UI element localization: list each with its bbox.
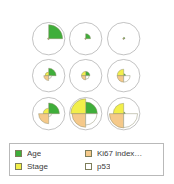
legend-swatch-ki67-icon bbox=[85, 150, 92, 157]
legend-item-stage[interactable]: Stage bbox=[15, 160, 85, 173]
legend-swatch-p53-icon bbox=[85, 163, 92, 170]
legend-label: p53 bbox=[97, 162, 110, 171]
pie-glyph-row bbox=[30, 95, 142, 132]
wedge-ki67-index bbox=[109, 113, 123, 127]
pie-glyph[interactable] bbox=[67, 57, 104, 94]
pie-glyph[interactable] bbox=[30, 95, 67, 132]
legend-swatch-age-icon bbox=[15, 150, 22, 157]
legend-box: AgeKi67 index…Stagep53 bbox=[9, 143, 164, 176]
pie-glyph[interactable] bbox=[105, 20, 142, 57]
pie-glyph-row bbox=[30, 57, 142, 94]
wedge-p53 bbox=[123, 113, 137, 127]
pie-glyph-row bbox=[30, 20, 142, 57]
pie-glyph[interactable] bbox=[67, 95, 104, 132]
legend-item-ki67[interactable]: Ki67 index… bbox=[85, 147, 155, 160]
wedge-age bbox=[49, 25, 63, 39]
legend-item-p53[interactable]: p53 bbox=[85, 160, 155, 173]
legend-label: Age bbox=[27, 149, 41, 158]
pie-glyph[interactable] bbox=[30, 57, 67, 94]
wedge-p53 bbox=[49, 39, 50, 40]
pie-glyph[interactable] bbox=[105, 95, 142, 132]
pie-glyph-grid bbox=[30, 20, 142, 132]
wedge-stage bbox=[71, 98, 86, 113]
legend-label: Stage bbox=[27, 162, 48, 171]
legend-items: AgeKi67 index…Stagep53 bbox=[15, 147, 163, 173]
pie-glyph[interactable] bbox=[30, 20, 67, 57]
pie-glyph[interactable] bbox=[67, 20, 104, 57]
legend-label: Ki67 index… bbox=[97, 149, 142, 158]
component-plane-figure: AgeKi67 index…Stagep53 bbox=[0, 0, 174, 184]
legend-swatch-stage-icon bbox=[15, 163, 22, 170]
pie-glyph[interactable] bbox=[105, 57, 142, 94]
legend-item-age[interactable]: Age bbox=[15, 147, 85, 160]
